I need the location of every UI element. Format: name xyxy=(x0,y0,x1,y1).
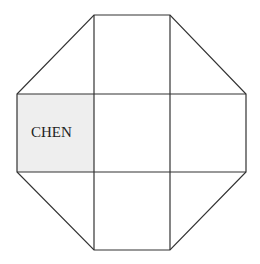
octagon-grid-svg: CHEN xyxy=(0,0,260,264)
octagon-diagram: CHEN xyxy=(0,0,260,264)
cell-label-chen: CHEN xyxy=(31,124,72,140)
